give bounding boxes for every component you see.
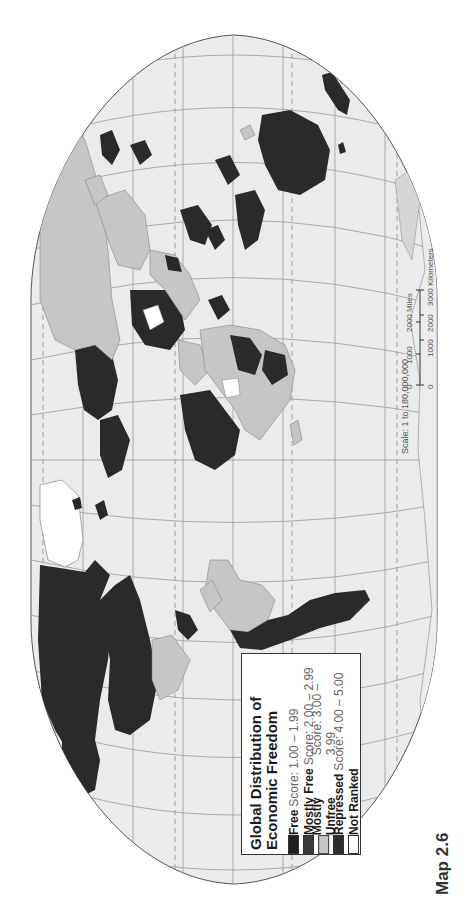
swatch-mostly-free bbox=[303, 835, 314, 854]
scale-km-2000: 2000 bbox=[426, 314, 435, 332]
legend-item-free: Free Score: 1.00 – 1.99 bbox=[286, 660, 301, 850]
legend-item-mostly-unfree: Mostly Unfree Score: 3.00 – 3.99 bbox=[316, 660, 331, 850]
scale-km-1000: 1000 bbox=[426, 339, 435, 357]
scale-km-3000: 3000 Kilometers bbox=[426, 248, 435, 306]
legend-title-line1: Global Distribution of bbox=[248, 660, 264, 850]
swatch-mostly-unfree bbox=[318, 835, 329, 854]
scale-miles-2000: 2000 Miles bbox=[405, 293, 414, 332]
swatch-repressed bbox=[333, 835, 344, 854]
scale-km-0: 0 bbox=[426, 385, 435, 389]
map-label: Map 2.6 bbox=[433, 833, 453, 895]
scale-ratio: Scale: 1 to 180,000,000 bbox=[400, 359, 410, 454]
legend: Global Distribution of Economic Freedom … bbox=[241, 653, 361, 855]
swatch-not-ranked bbox=[348, 835, 359, 854]
world-map bbox=[0, 0, 469, 923]
swatch-free bbox=[288, 835, 299, 854]
legend-item-repressed: Repressed Score: 4.00 – 5.00 bbox=[331, 660, 346, 850]
legend-title-line2: Economic Freedom bbox=[264, 660, 280, 850]
legend-item-not-ranked: Not Ranked bbox=[346, 660, 361, 850]
